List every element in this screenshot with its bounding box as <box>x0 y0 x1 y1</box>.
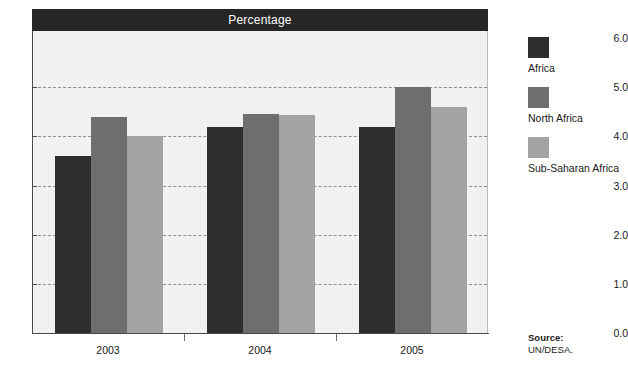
y-axis-tick <box>32 284 37 285</box>
x-axis-tick-label: 2003 <box>96 344 119 356</box>
chart-title: Percentage <box>32 9 488 31</box>
plot-area <box>32 31 488 333</box>
bar <box>431 107 467 333</box>
y-axis <box>0 0 30 370</box>
bar <box>279 115 315 333</box>
x-axis-line <box>32 333 489 334</box>
x-axis-tick-label: 2005 <box>400 344 423 356</box>
bar <box>243 114 279 333</box>
y-axis-tick-label: 0.0 <box>602 327 628 339</box>
legend-entry[interactable]: Africa <box>528 37 628 74</box>
bar <box>55 156 91 333</box>
y-axis-tick-label: 2.0 <box>602 229 628 241</box>
bar <box>359 127 395 333</box>
legend-swatch <box>528 37 549 58</box>
source-label: Source: <box>528 332 573 344</box>
source-value: UN/DESA. <box>528 344 573 356</box>
y-axis-tick <box>32 186 37 187</box>
legend-label: North Africa <box>528 112 628 124</box>
source-note: Source: UN/DESA. <box>528 332 573 356</box>
legend-swatch <box>528 137 549 158</box>
bar <box>91 117 127 333</box>
x-axis-tick-label: 2004 <box>248 344 271 356</box>
legend-entry[interactable]: North Africa <box>528 87 628 124</box>
x-axis-tick <box>336 334 337 341</box>
bar <box>395 87 431 333</box>
legend-label: Sub-Saharan Africa <box>528 162 628 174</box>
legend-label: Africa <box>528 62 628 74</box>
y-axis-tick <box>32 235 37 236</box>
bar <box>127 136 163 333</box>
bar <box>207 127 243 334</box>
chart-legend: AfricaNorth AfricaSub-Saharan Africa <box>528 37 628 187</box>
y-axis-tick-label: 1.0 <box>602 278 628 290</box>
y-axis-tick <box>32 136 37 137</box>
x-axis-tick <box>184 334 185 341</box>
legend-entry[interactable]: Sub-Saharan Africa <box>528 137 628 174</box>
y-axis-tick <box>32 87 37 88</box>
legend-swatch <box>528 87 549 108</box>
